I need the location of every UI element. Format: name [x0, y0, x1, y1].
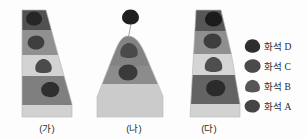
da-fossil-A [206, 80, 225, 96]
legend-item-fossil-c: 화석 C [244, 56, 306, 76]
fossil-c-icon [244, 58, 261, 74]
da-fossil-C [204, 33, 222, 48]
ga-fossil-A-lower [41, 82, 59, 97]
legend-label-fossil-b: 화석 B [264, 79, 291, 93]
na-fossil-C [119, 65, 138, 81]
column-caption-na: (나) [114, 121, 154, 135]
column-ga [14, 8, 84, 119]
legend-item-fossil-a: 화석 A [244, 96, 306, 116]
column-caption-ga: (가) [27, 121, 67, 135]
na-callout-fossil-D [122, 9, 139, 24]
legend-label-fossil-c: 화석 C [264, 59, 291, 73]
ga-fossil-C [28, 35, 45, 49]
fossil-d-icon [244, 38, 261, 54]
column-caption-da: (다) [189, 121, 229, 135]
legend-label-fossil-d: 화석 D [264, 39, 291, 53]
column-na [90, 9, 172, 120]
fossil-b-icon [244, 78, 261, 94]
column-da [184, 8, 246, 119]
legend-item-fossil-d: 화석 D [244, 36, 306, 56]
legend-label-fossil-a: 화석 A [264, 99, 291, 113]
fossil-a-icon [244, 98, 261, 114]
legend-item-fossil-b: 화석 B [244, 76, 306, 96]
fossil-legend: 화석 D 화석 C 화석 B 화석 A [244, 36, 306, 118]
